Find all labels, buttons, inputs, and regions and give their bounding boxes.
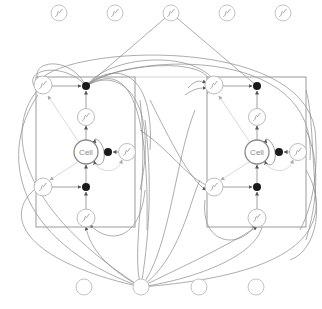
output-gate-sigmoid [34, 178, 52, 196]
cell-input-sigmoid [78, 109, 95, 126]
top-multiplier-node [253, 82, 261, 90]
input-gate-sigmoid [34, 76, 52, 94]
forget-multiplier-node [275, 148, 283, 156]
output-layer [51, 5, 291, 21]
input-node-2 [133, 279, 149, 295]
cell-label: Cell [250, 148, 264, 157]
memory-block-left: Cell [34, 76, 136, 227]
cell-label: Cell [79, 148, 93, 157]
output-gate-sigmoid [205, 178, 223, 196]
memory-block-right: Cell [205, 76, 307, 227]
bottom-multiplier-node [253, 183, 261, 191]
forget-gate-sigmoid [290, 144, 307, 161]
forget-gate-sigmoid [119, 144, 136, 161]
bottom-multiplier-node [82, 183, 90, 191]
input-node-1 [76, 279, 92, 295]
top-multiplier-node [82, 82, 90, 90]
output-node-4 [219, 5, 235, 21]
input-gate-sigmoid [205, 76, 223, 94]
output-node-5 [275, 5, 291, 21]
input-node-4 [248, 279, 264, 295]
block-input-sigmoid [248, 209, 266, 227]
block-input-sigmoid [77, 209, 95, 227]
forget-multiplier-node [104, 148, 112, 156]
output-node-3 [163, 5, 179, 21]
output-node-1 [51, 5, 67, 21]
lstm-network-diagram: Cell Ce [0, 0, 322, 309]
recurrent-connections [19, 13, 317, 287]
output-node-2 [107, 5, 123, 21]
cell-input-sigmoid [249, 109, 266, 126]
input-node-3 [191, 279, 207, 295]
